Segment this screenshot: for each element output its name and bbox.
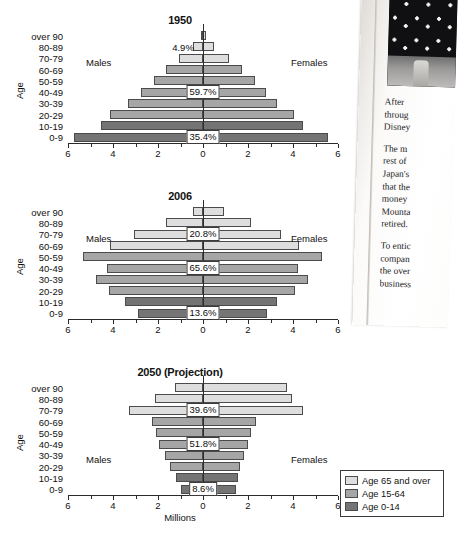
x-axis-minor-tick: [316, 144, 317, 147]
bar-female: [203, 275, 308, 284]
x-axis-minor-tick: [226, 320, 227, 323]
text-line: throug: [384, 109, 409, 120]
x-axis-minor-tick: [181, 320, 182, 323]
bar-male: [175, 383, 203, 392]
bar-male: [165, 451, 203, 460]
age-group-label: 20-29: [0, 285, 63, 296]
text-line: Disney: [384, 122, 411, 133]
magazine-body-text: After throug Disney The m rest of Japan'…: [379, 95, 455, 300]
bar-male: [83, 252, 203, 261]
chart-title: 2050 (Projection): [0, 366, 360, 378]
bar-male: [110, 110, 203, 119]
x-axis-tick-label: 4: [290, 148, 295, 159]
bar-female: [203, 110, 294, 119]
text-line: To entic: [380, 240, 410, 251]
text-line: compan: [380, 253, 410, 264]
legend-label: Age 0-14: [362, 502, 400, 512]
percentage-callout: 20.8%: [187, 227, 220, 241]
center-axis-line: [203, 376, 204, 495]
age-group-label: 30-39: [0, 274, 63, 285]
x-axis-tick-label: 6: [65, 500, 70, 511]
age-group-label: 20-29: [0, 109, 63, 120]
males-label: Males: [86, 233, 111, 244]
x-axis-tick-label: 4: [110, 148, 115, 159]
age-group-label: 10-19: [0, 473, 63, 484]
center-axis-line: [203, 24, 204, 143]
age-group-label: 30-39: [0, 98, 63, 109]
bar-male: [166, 65, 203, 74]
bar-male: [156, 428, 203, 437]
bar-female: [203, 451, 244, 460]
age-group-label: 0-9: [0, 484, 63, 495]
text-line: the over: [380, 265, 410, 276]
bar-male: [176, 473, 203, 482]
x-axis-tick-label: 0: [200, 324, 205, 335]
age-group-label: 70-79: [0, 405, 63, 416]
bar-male: [179, 54, 203, 63]
age-group-label: over 90: [0, 382, 63, 393]
bar-female: [203, 417, 256, 426]
text-line: The m: [383, 143, 407, 154]
text-line: Mounta: [381, 206, 410, 217]
x-axis-minor-tick: [271, 144, 272, 147]
bar-female: [203, 121, 303, 130]
percentage-callout: 51.8%: [187, 437, 220, 451]
age-group-label: 40-49: [0, 263, 63, 274]
x-axis-minor-tick: [271, 496, 272, 499]
bar-female: [203, 54, 229, 63]
polka-dot-pattern: [388, 0, 458, 57]
bar-female: [203, 462, 240, 471]
x-axis-minor-tick: [226, 144, 227, 147]
bar-female: [203, 286, 295, 295]
bar-female: [203, 133, 328, 142]
legend-item: Age 65 and over: [345, 474, 440, 487]
x-axis-minor-tick: [91, 320, 92, 323]
chart-title: 2006: [0, 190, 360, 202]
bar-male: [128, 99, 203, 108]
percentage-callout: 65.6%: [187, 261, 220, 275]
x-axis-minor-tick: [91, 496, 92, 499]
age-group-label: 0-9: [0, 132, 63, 143]
age-group-label: 60-69: [0, 64, 63, 75]
x-axis-tick-label: 6: [335, 324, 340, 335]
bar-female: [203, 218, 251, 227]
text-line: retired.: [381, 219, 408, 230]
x-axis-tick-label: 2: [155, 324, 160, 335]
bar-male: [193, 42, 203, 51]
bar-male: [193, 207, 203, 216]
age-group-label: 40-49: [0, 87, 63, 98]
bar-female: [203, 383, 287, 392]
page-gutter: [366, 0, 377, 325]
bar-male: [96, 275, 203, 284]
x-axis-minor-tick: [136, 496, 137, 499]
x-axis-minor-tick: [181, 496, 182, 499]
x-axis-tick-label: 4: [290, 324, 295, 335]
photo-figure: [413, 60, 429, 86]
text-line: money: [382, 194, 408, 205]
age-group-label: 70-79: [0, 229, 63, 240]
population-pyramid-2006: 2006 Age0-910-1920-2930-3940-4950-5960-6…: [0, 184, 360, 360]
x-axis-tick-label: 2: [245, 148, 250, 159]
x-axis-tick-label: 2: [245, 500, 250, 511]
x-axis-tick-label: 4: [110, 324, 115, 335]
x-axis-tick-label: 6: [65, 148, 70, 159]
percentage-callout: 4.9%: [172, 41, 194, 52]
population-pyramid-1950: 1950 Age0-910-1920-2930-3940-4950-5960-6…: [0, 8, 360, 180]
chart-title: 1950: [0, 14, 360, 26]
x-axis-tick-label: 2: [245, 324, 250, 335]
age-group-label: 60-69: [0, 240, 63, 251]
bar-male: [101, 121, 203, 130]
bar-female: [203, 241, 299, 250]
age-group-label: 40-49: [0, 439, 63, 450]
age-group-label: 50-59: [0, 251, 63, 262]
magazine-page-fragment: After throug Disney The m rest of Japan'…: [352, 0, 456, 327]
legend-label: Age 65 and over: [362, 476, 430, 486]
x-axis-tick-label: 6: [65, 324, 70, 335]
females-label: Females: [291, 57, 327, 68]
bar-female: [203, 428, 251, 437]
bar-male: [125, 297, 203, 306]
x-axis-minor-tick: [91, 144, 92, 147]
legend-item: Age 0-14: [345, 500, 440, 513]
text-line: that the: [382, 181, 410, 192]
bar-male: [109, 286, 204, 295]
